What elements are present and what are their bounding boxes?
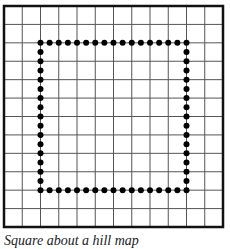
square-dot — [38, 150, 44, 156]
square-dot — [38, 160, 44, 166]
square-dot — [174, 187, 180, 193]
square-dot — [38, 67, 44, 73]
square-dot — [184, 114, 190, 120]
square-dot — [38, 123, 44, 129]
square-dot — [38, 77, 44, 83]
square-dot — [184, 132, 190, 138]
square-dot — [38, 132, 44, 138]
square-dot — [38, 104, 44, 110]
square-dot — [184, 178, 190, 184]
square-dot — [184, 160, 190, 166]
square-dot — [138, 187, 144, 193]
square-dot — [184, 123, 190, 129]
square-dot — [38, 86, 44, 92]
square-dot — [83, 40, 89, 46]
square-dot — [111, 187, 117, 193]
square-dot — [101, 187, 107, 193]
square-dot — [83, 187, 89, 193]
square-dot — [184, 169, 190, 175]
square-dot — [38, 169, 44, 175]
square-dot — [38, 49, 44, 55]
square-dot — [156, 187, 162, 193]
square-dot — [184, 104, 190, 110]
square-dot — [38, 141, 44, 147]
square-dot — [129, 187, 135, 193]
square-dot — [184, 77, 190, 83]
square-dot — [184, 187, 190, 193]
square-dot — [92, 187, 98, 193]
square-dot — [65, 40, 71, 46]
square-dot — [147, 187, 153, 193]
square-dot — [38, 187, 44, 193]
square-dot — [174, 40, 180, 46]
square-dot — [47, 40, 53, 46]
figure-caption: Square about a hill map — [4, 233, 139, 249]
square-dot — [47, 187, 53, 193]
square-dot — [165, 187, 171, 193]
square-dot — [38, 40, 44, 46]
square-dot — [38, 95, 44, 101]
square-dot — [38, 114, 44, 120]
square-dot — [138, 40, 144, 46]
square-dot — [156, 40, 162, 46]
square-dot — [165, 40, 171, 46]
square-dot — [111, 40, 117, 46]
square-dot — [184, 58, 190, 64]
square-dot — [56, 40, 62, 46]
square-dot — [184, 49, 190, 55]
square-dot — [120, 187, 126, 193]
square-dot — [38, 178, 44, 184]
square-dot — [74, 187, 80, 193]
square-dot — [74, 40, 80, 46]
square-dot — [184, 150, 190, 156]
square-dot — [184, 86, 190, 92]
square-dot — [184, 141, 190, 147]
square-dot — [147, 40, 153, 46]
square-dot — [56, 187, 62, 193]
square-dot — [184, 67, 190, 73]
square-dot — [65, 187, 71, 193]
square-dot — [92, 40, 98, 46]
square-dot — [120, 40, 126, 46]
square-dot — [101, 40, 107, 46]
square-dot — [184, 95, 190, 101]
square-dot — [129, 40, 135, 46]
square-dot — [38, 58, 44, 64]
grid-lines — [4, 6, 223, 227]
square-dot — [184, 40, 190, 46]
